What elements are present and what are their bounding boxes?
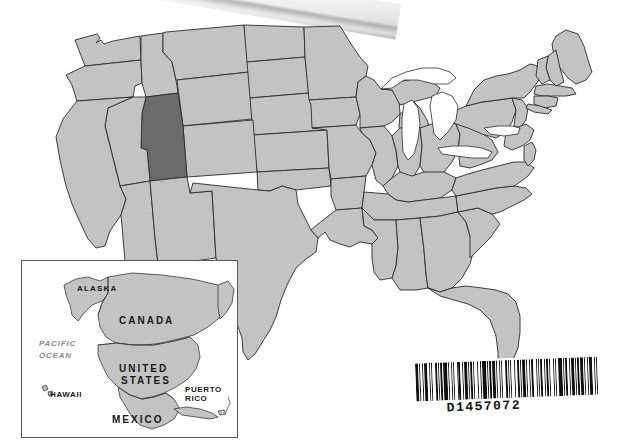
state-massachusetts <box>534 84 576 96</box>
inset-label-puerto: PUERTO <box>185 385 222 394</box>
state-delmarva <box>524 142 536 166</box>
north-america-inset-map: ALASKA CANADA PACIFIC OCEAN UNITED STATE… <box>21 260 238 438</box>
inset-puerto-rico <box>218 410 226 415</box>
inset-label-pacific: PACIFIC <box>39 339 76 348</box>
inset-label-states: STATES <box>121 375 171 386</box>
barcode-space <box>597 356 601 394</box>
inset-label-ocean: OCEAN <box>39 351 72 360</box>
inset-label-canada: CANADA <box>119 315 174 326</box>
scanned-map-page: ALASKA CANADA PACIFIC OCEAN UNITED STATE… <box>0 0 641 448</box>
inset-label-alaska: ALASKA <box>77 284 118 293</box>
inset-map-graphic <box>22 261 236 436</box>
state-colorado <box>183 120 257 177</box>
inset-label-rico: RICO <box>185 394 207 403</box>
state-south-dakota <box>247 57 309 98</box>
inset-label-mexico: MEXICO <box>112 414 163 425</box>
inset-label-united: UNITED <box>119 363 168 374</box>
state-oregon <box>66 60 142 101</box>
state-oklahoma <box>257 168 331 191</box>
barcode-value: D1457072 <box>446 398 521 416</box>
barcode-bars <box>415 356 602 401</box>
state-kansas <box>253 130 329 172</box>
barcode-label: D1457072 <box>413 354 605 421</box>
state-iowa <box>309 97 360 128</box>
state-montana <box>163 25 249 80</box>
inset-label-hawaii: HAWAII <box>50 390 82 399</box>
state-wyoming <box>177 72 252 126</box>
state-georgia <box>420 212 474 292</box>
state-arkansas <box>331 176 366 210</box>
state-north-dakota <box>244 25 305 62</box>
